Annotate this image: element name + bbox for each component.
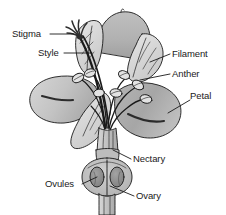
- label-petal: Petal: [190, 91, 211, 101]
- label-ovules: Ovules: [45, 179, 74, 189]
- flower-diagram: Stigma Style Filament Anther Petal Necta…: [0, 0, 226, 215]
- ovary-shape: [82, 158, 132, 196]
- pedicel-shape: [99, 194, 115, 215]
- label-style: Style: [38, 48, 59, 58]
- label-ovary: Ovary: [136, 191, 161, 201]
- label-stigma: Stigma: [12, 29, 41, 39]
- label-anther: Anther: [172, 69, 199, 79]
- label-nectary: Nectary: [133, 154, 165, 164]
- label-filament: Filament: [172, 49, 208, 59]
